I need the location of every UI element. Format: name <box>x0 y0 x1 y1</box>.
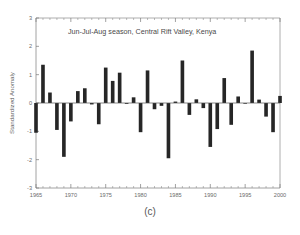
x-tick-label: 1990 <box>204 192 216 198</box>
bar <box>264 103 268 117</box>
x-tick-label: 1995 <box>239 192 251 198</box>
bar <box>215 103 219 129</box>
bar <box>62 103 66 157</box>
x-tick-labels: 19651970197519801985199019952000 <box>30 192 286 198</box>
bar-series <box>34 51 282 159</box>
x-tick-label: 1975 <box>99 192 111 198</box>
bar <box>104 68 108 103</box>
y-tick-label: -1 <box>27 128 32 134</box>
y-tick-label: 0 <box>29 100 32 106</box>
figure-panel: -3-2-10123 19651970197519801985199019952… <box>0 0 300 235</box>
y-tick-label: 3 <box>29 15 32 21</box>
x-tick-marks <box>36 184 280 188</box>
y-tick-label: -3 <box>27 185 32 191</box>
bar <box>229 103 233 125</box>
bar <box>76 91 80 103</box>
bar <box>188 103 192 115</box>
bar <box>111 81 115 103</box>
bar <box>118 73 122 103</box>
x-tick-label: 1985 <box>169 192 181 198</box>
y-tick-label: -2 <box>27 157 32 163</box>
bar <box>222 78 226 103</box>
bar <box>257 100 261 103</box>
anomaly-bar-chart: -3-2-10123 19651970197519801985199019952… <box>0 0 300 200</box>
x-tick-label: 1965 <box>30 192 42 198</box>
x-tick-label: 1970 <box>65 192 77 198</box>
bar <box>181 61 185 104</box>
bar <box>146 70 150 103</box>
bar <box>139 103 143 132</box>
bar <box>34 103 38 133</box>
y-tick-label: 1 <box>29 72 32 78</box>
bar <box>97 103 101 124</box>
bar <box>153 103 157 109</box>
bar <box>132 97 136 103</box>
top-axis-tick-marks <box>36 18 280 22</box>
bar <box>160 103 164 106</box>
y-tick-label: 2 <box>29 43 32 49</box>
bar <box>83 88 87 103</box>
chart-title: Jun-Jul-Aug season, Central Rift Valley,… <box>68 27 216 36</box>
bar <box>41 65 45 103</box>
bar <box>250 51 254 103</box>
y-tick-labels: -3-2-10123 <box>27 15 32 191</box>
x-tick-label: 2000 <box>274 192 286 198</box>
bar <box>236 96 240 103</box>
bar <box>55 103 59 130</box>
bar <box>48 93 52 103</box>
bar <box>69 103 73 121</box>
bar <box>167 103 171 158</box>
bar <box>195 99 199 103</box>
x-tick-label: 1980 <box>134 192 146 198</box>
figure-caption: (c) <box>0 206 300 217</box>
y-axis-label: Standardized Anomaly <box>8 71 15 134</box>
bar <box>202 103 206 108</box>
bar <box>208 103 212 147</box>
bar <box>271 103 275 132</box>
bar <box>278 96 282 103</box>
chart-plot-area: -3-2-10123 19651970197519801985199019952… <box>0 0 300 200</box>
